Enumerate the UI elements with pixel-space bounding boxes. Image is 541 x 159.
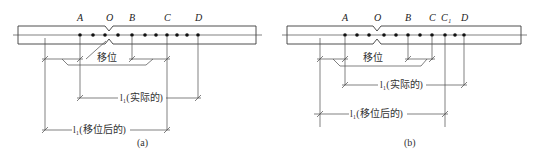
label-C1-b: C₁ — [441, 12, 451, 23]
label-A-b: A — [341, 12, 349, 23]
label-O-b: O — [374, 12, 381, 23]
figure-a: A O B C D 移位 l₁(实际的) l₁(移位后的) (a) — [13, 12, 262, 149]
shift-label-a: 移位 — [97, 51, 117, 63]
label-D-b: D — [460, 12, 469, 23]
caption-a: (a) — [137, 137, 148, 149]
figure-b: A O B C C₁ D 移位 l₁(实际的) l₁(移位后的) (b) — [282, 12, 527, 149]
dim-shifted-label-b: l₁(移位后的) — [350, 107, 403, 120]
label-A-a: A — [76, 12, 84, 23]
dim-shifted-label-a: l₁(移位后的) — [73, 123, 126, 136]
diagram-canvas: A O B C D 移位 l₁(实际的) l₁(移位后的) (a) — [0, 0, 541, 159]
label-B-b: B — [405, 12, 411, 23]
label-C-a: C — [164, 12, 171, 23]
dim-actual-label-a: l₁(实际的) — [120, 91, 163, 104]
label-O-a: O — [106, 12, 113, 23]
label-C-b: C — [429, 12, 436, 23]
label-B-a: B — [129, 12, 135, 23]
caption-b: (b) — [404, 137, 416, 149]
shift-label-b: 移位 — [363, 51, 383, 63]
label-D-a: D — [194, 12, 203, 23]
dim-actual-label-b: l₁(实际的) — [380, 78, 423, 91]
